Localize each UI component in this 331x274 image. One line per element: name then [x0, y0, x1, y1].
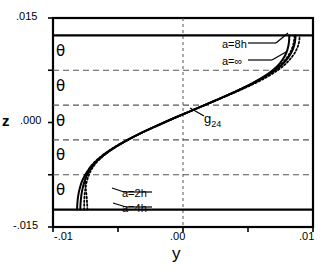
figure-container: .015 .000 -.015 z -.01 .00 .01 y θθθθθ a… — [0, 0, 331, 274]
x-axis-tick-label-left: -.01 — [54, 231, 73, 242]
z-axis-title: z — [2, 113, 10, 128]
annotation-a-infinity: a=∞ — [222, 56, 242, 67]
plot-canvas — [0, 0, 331, 274]
annotation-a-4h: a=4h — [122, 203, 147, 214]
x-axis-tick-label-mid: .00 — [170, 231, 185, 242]
theta-symbol-1: θ — [56, 44, 65, 59]
curve-label-subscript: 24 — [211, 119, 221, 129]
y-axis-tick-label-bottom: -.015 — [13, 220, 38, 231]
y-axis-tick-label-top: .015 — [16, 11, 37, 22]
y-axis-title: y — [172, 245, 181, 262]
theta-symbol-2: θ — [56, 79, 65, 94]
annotation-curve-g24: g24 — [204, 112, 221, 129]
theta-symbol-4: θ — [56, 148, 65, 163]
theta-symbol-3: θ — [56, 114, 65, 129]
annotation-a-2h: a=2h — [122, 188, 147, 199]
y-axis-tick-label-mid: .000 — [20, 115, 41, 126]
annotation-a-8h: a=8h — [222, 39, 247, 50]
x-axis-tick-label-right: .01 — [299, 231, 314, 242]
theta-symbol-5: θ — [56, 183, 65, 198]
